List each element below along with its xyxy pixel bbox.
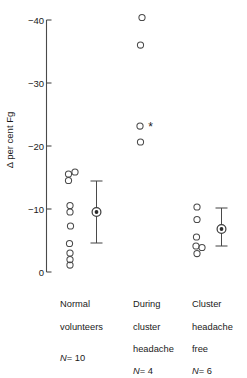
group-caption-line: During: [133, 299, 191, 310]
y-axis-tick-labels: −40 −30 −20 −10 0: [28, 15, 44, 278]
data-point: [194, 216, 200, 222]
n-value: = 4: [140, 366, 153, 376]
data-point: [67, 223, 73, 229]
mean-marker-center: [95, 210, 99, 214]
tick-label-minus20: −20: [28, 141, 44, 152]
group-cluster-headache-free: [193, 204, 228, 257]
mean-marker-cluster-headache-free: [217, 225, 226, 234]
data-point: [193, 234, 199, 240]
data-point: [67, 202, 73, 208]
n-symbol: N: [133, 366, 140, 376]
data-point: [67, 250, 73, 256]
group-caption-line: headache: [192, 322, 247, 333]
group-caption-during-cluster-headache: During cluster headache N= 4: [133, 288, 191, 378]
n-value: = 10: [67, 353, 85, 363]
y-axis-ticks: [47, 20, 52, 272]
group-during-cluster-headache: *: [137, 14, 153, 145]
data-point: [193, 243, 199, 249]
group-n-cluster-headache-free: N= 6: [192, 366, 247, 377]
group-caption-normal-volunteers: Normal volunteers N= 10: [60, 288, 122, 375]
data-point: [139, 14, 145, 20]
group-caption-line: free: [192, 344, 247, 355]
group-caption-line: Normal: [60, 299, 122, 310]
y-axis-title: Δ per cent Fg: [4, 112, 15, 169]
data-point: [67, 209, 73, 215]
tick-label-zero: 0: [39, 267, 44, 278]
mean-marker-normal-volunteers: [92, 208, 101, 217]
data-points-normal-volunteers: [65, 169, 78, 268]
data-points-cluster-headache-free: [193, 204, 205, 257]
data-point: [137, 123, 143, 129]
data-point: [137, 139, 143, 145]
data-point: [137, 42, 143, 48]
data-points-during-cluster-headache: [137, 14, 145, 145]
data-point: [65, 177, 71, 183]
significance-asterisk: *: [148, 120, 153, 134]
data-point: [66, 240, 72, 246]
tick-label-minus30: −30: [28, 78, 44, 89]
data-point: [194, 250, 200, 256]
group-n-during-cluster-headache: N= 4: [133, 366, 191, 377]
group-caption-line: cluster: [133, 322, 191, 333]
group-n-normal-volunteers: N= 10: [60, 353, 122, 364]
data-point: [199, 244, 205, 250]
tick-label-minus40: −40: [28, 15, 44, 26]
group-caption-line: headache: [133, 344, 191, 355]
n-symbol: N: [60, 353, 67, 363]
mean-marker-center: [220, 227, 224, 231]
data-point: [72, 169, 78, 175]
group-normal-volunteers: [65, 169, 102, 268]
n-symbol: N: [192, 366, 199, 376]
tick-label-minus10: −10: [28, 204, 44, 215]
group-caption-cluster-headache-free: Cluster headache free N= 6: [192, 288, 247, 378]
data-point: [65, 171, 71, 177]
group-caption-line: Cluster: [192, 299, 247, 310]
data-point: [194, 204, 200, 210]
group-caption-line: volunteers: [60, 322, 122, 333]
n-value: = 6: [199, 366, 212, 376]
